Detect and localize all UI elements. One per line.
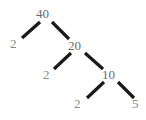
edge-node-20-to-left-leaf [54,53,71,69]
edge-node-20-to-node-10 [85,53,103,69]
edge-root-to-left-leaf [22,22,40,38]
tree-node-root-40: 40 [36,7,49,20]
tree-node-leaf-2-c: 2 [74,97,81,110]
edge-node-10-to-left-leaf [87,82,104,98]
tree-node-20: 20 [68,39,81,52]
binary-tree-diagram: 40 2 20 2 10 2 5 [0,0,146,120]
tree-node-leaf-2-b: 2 [43,68,50,81]
tree-node-leaf-5: 5 [132,97,139,110]
tree-edges-canvas [0,0,146,120]
edge-root-to-node-20 [52,22,69,39]
tree-node-10: 10 [102,68,115,81]
tree-node-leaf-2-a: 2 [10,37,17,50]
